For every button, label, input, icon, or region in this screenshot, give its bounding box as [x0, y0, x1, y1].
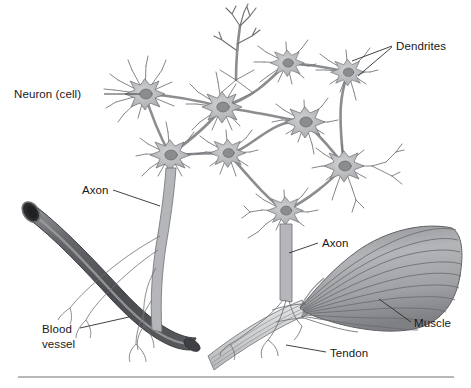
- label-axon-left: Axon: [82, 183, 109, 197]
- label-tendon: Tendon: [330, 346, 368, 360]
- leader-axon-right: [289, 243, 318, 253]
- interneuron-connections: [145, 26, 348, 211]
- label-dendrites: Dendrites: [396, 39, 446, 53]
- label-neuron-cell: Neuron (cell): [14, 87, 81, 101]
- neuron-soma: [125, 79, 165, 110]
- label-blood-vessel-line2: vessel: [42, 337, 75, 351]
- leader-axon-left: [113, 190, 160, 206]
- figure-canvas: Neuron (cell) Dendrites Axon Axon Blood …: [0, 0, 471, 388]
- leader-dendrites-a: [352, 46, 392, 61]
- leader-dendrites-b: [358, 47, 392, 76]
- label-blood-vessel-line1: Blood: [42, 322, 72, 336]
- neuron-soma: [210, 140, 246, 168]
- label-axon-right: Axon: [322, 236, 349, 250]
- label-muscle: Muscle: [414, 316, 451, 330]
- neuron-soma: [202, 92, 242, 123]
- neuron-network: [104, 4, 404, 238]
- neuron-soma: [331, 60, 365, 86]
- leader-tendon: [286, 345, 326, 352]
- tendon: [208, 300, 308, 370]
- neuron-soma: [285, 107, 325, 138]
